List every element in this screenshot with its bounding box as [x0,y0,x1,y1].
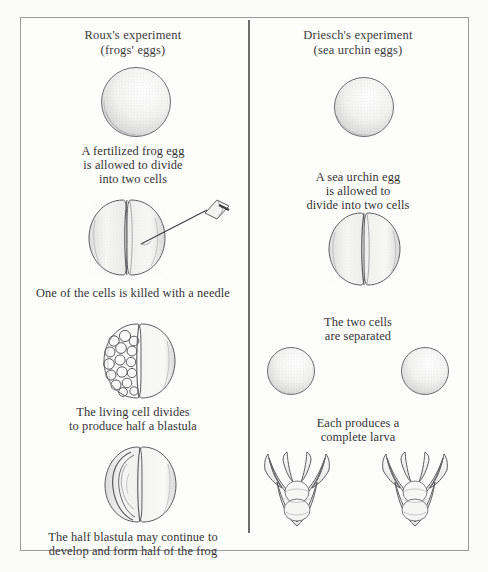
caption-two-cells-separated: The two cells are separated [246,315,470,343]
column-header-driesch-line2: (sea urchin eggs) [246,43,470,58]
illustration-half-frog-embryo [101,444,181,526]
figure-frame: Roux's experiment (frogs' eggs) [20,17,469,551]
illustration-two-cell-embryo-with-needle [83,196,243,278]
illustration-fertilized-frog-egg [98,64,174,140]
caption-line: is allowed to [246,184,470,198]
caption-line: One of the cells is killed with a needle [21,286,245,300]
illustration-separated-cell-right [398,344,452,398]
caption-line: The living cell divides [21,405,245,419]
illustration-half-blastula [101,321,179,401]
caption-fertilized-frog-egg: A fertilized frog egg is allowed to divi… [21,144,245,187]
illustration-separated-cell-left [264,344,318,398]
caption-line: A sea urchin egg [246,170,470,184]
caption-sea-urchin-egg: A sea urchin egg is allowed to divide in… [246,170,470,213]
caption-line: The half blastula may continue to [21,530,245,544]
column-header-driesch: Driesch's experiment (sea urchin eggs) [246,28,470,57]
caption-half-blastula: The living cell divides to produce half … [21,405,245,433]
caption-line: complete larva [246,430,470,444]
caption-line: A fertilized frog egg [21,144,245,158]
caption-line: is allowed to divide [21,158,245,172]
caption-needle-kill: One of the cells is killed with a needle [21,286,245,300]
column-driesch-experiment: Driesch's experiment (sea urchin eggs) [246,18,470,552]
caption-line: into two cells [21,172,245,186]
illustration-pluteus-larva-left [260,448,334,530]
caption-half-frog: The half blastula may continue to develo… [21,530,245,558]
column-header-roux: Roux's experiment (frogs' eggs) [21,28,245,57]
illustration-urchin-two-cell-embryo [324,210,404,288]
column-header-roux-line1: Roux's experiment [21,28,245,43]
caption-line: to produce half a blastula [21,419,245,433]
caption-line: develop and form half of the frog [21,544,245,558]
caption-line: The two cells [246,315,470,329]
caption-line: Each produces a [246,416,470,430]
column-header-roux-line2: (frogs' eggs) [21,43,245,58]
illustration-pluteus-larva-right [378,448,452,530]
column-header-driesch-line1: Driesch's experiment [246,28,470,43]
column-roux-experiment: Roux's experiment (frogs' eggs) [21,18,245,552]
caption-line: are separated [246,329,470,343]
caption-each-produces-larva: Each produces a complete larva [246,416,470,444]
illustration-sea-urchin-egg [331,74,397,140]
